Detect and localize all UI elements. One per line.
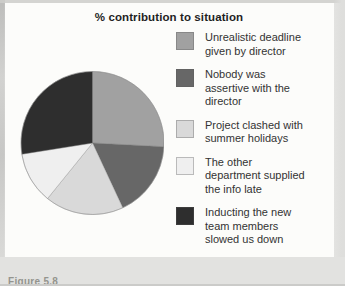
pie-chart (14, 65, 164, 215)
legend-label: The otherdepartment suppliedthe info lat… (205, 156, 305, 197)
figure-caption: Figure 5.8 (8, 276, 58, 286)
legend-swatch (176, 207, 194, 225)
legend-label: Unrealistic deadlinegiven by director (205, 31, 301, 58)
chart-panel: % contribution to situation Unrealistic … (4, 3, 334, 257)
caption-strip: Figure 5.8 (0, 257, 345, 286)
scan-edge-right (334, 0, 345, 258)
legend-label: Inducting the newteam membersslowed us d… (205, 206, 291, 247)
legend-item: Unrealistic deadlinegiven by director (176, 31, 332, 58)
pie-slice-5 (21, 72, 93, 155)
legend: Unrealistic deadlinegiven by directorNob… (176, 31, 332, 247)
legend-swatch (176, 32, 194, 50)
legend-swatch (176, 69, 194, 87)
legend-label: Project clashed withsummer holidays (205, 119, 303, 146)
chart-title: % contribution to situation (4, 11, 334, 23)
legend-item: Inducting the newteam membersslowed us d… (176, 206, 332, 247)
scan-edge-left (0, 0, 5, 258)
legend-item: The otherdepartment suppliedthe info lat… (176, 156, 332, 197)
scan-edge-top (0, 0, 345, 3)
legend-swatch (176, 120, 194, 138)
legend-swatch (176, 157, 194, 175)
legend-label: Nobody wasassertive with thedirector (205, 68, 290, 109)
pie-slice-1 (93, 72, 164, 147)
legend-item: Project clashed withsummer holidays (176, 119, 332, 146)
scanned-page: % contribution to situation Unrealistic … (0, 0, 345, 286)
legend-item: Nobody wasassertive with thedirector (176, 68, 332, 109)
